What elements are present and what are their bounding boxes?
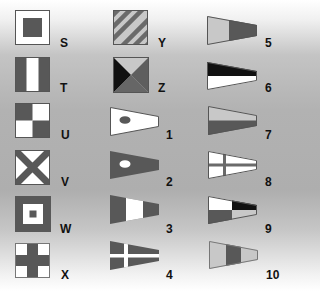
pennant-4-icon: [110, 241, 159, 270]
pennant-7-icon: [208, 106, 257, 135]
pennant-3-icon: [110, 195, 159, 224]
flag-s-icon: [15, 10, 50, 45]
pennant-9-icon: [208, 196, 257, 224]
flag-label: U: [61, 129, 70, 141]
flag-label: 3: [166, 223, 173, 235]
flag-label: T: [60, 82, 67, 94]
pennant-1-icon: [110, 107, 159, 136]
pennant-8-icon: [208, 151, 257, 179]
flag-x-icon: [15, 243, 50, 278]
flag-label: W: [60, 223, 71, 235]
flag-label: 2: [166, 176, 173, 188]
pennant-6-icon: [207, 62, 257, 90]
flag-label: 8: [265, 176, 272, 188]
flag-label: 6: [265, 82, 272, 94]
flag-y-icon: [113, 10, 148, 45]
flag-label: Y: [158, 37, 166, 49]
flag-label: 4: [166, 269, 173, 281]
flag-label: V: [61, 176, 69, 188]
flag-t-icon: [15, 57, 50, 92]
flag-z-icon: [113, 57, 149, 93]
pennant-5-icon: [207, 16, 257, 45]
flag-label: 5: [265, 37, 272, 49]
flag-w-icon: [15, 196, 51, 232]
pennant-10-icon: [209, 241, 258, 269]
flag-label: 10: [266, 269, 279, 281]
flag-label: 7: [265, 129, 272, 141]
flag-label: 9: [265, 223, 272, 235]
flag-u-icon: [15, 103, 50, 138]
flag-label: 1: [166, 129, 173, 141]
flag-label: X: [61, 269, 69, 281]
flag-label: Z: [158, 82, 165, 94]
flag-v-icon: [15, 150, 50, 185]
flag-label: S: [60, 37, 68, 49]
pennant-2-icon: [110, 151, 159, 179]
